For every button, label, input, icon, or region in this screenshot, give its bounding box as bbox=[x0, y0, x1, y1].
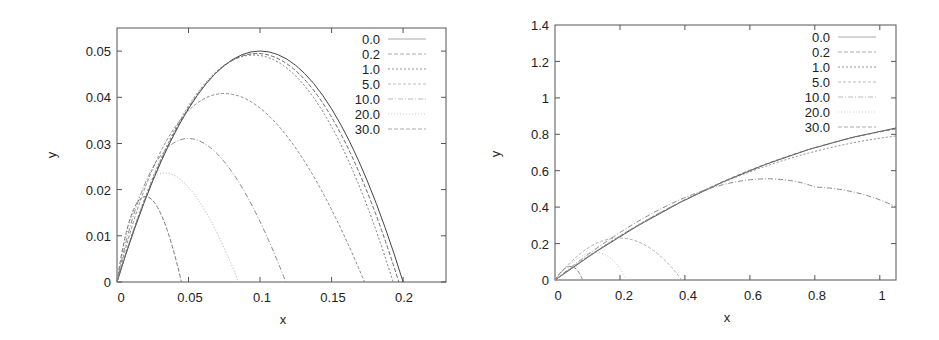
right-ytick-label: 1.4 bbox=[531, 18, 549, 33]
right-ytick-label: 0 bbox=[542, 273, 549, 288]
left-legend: 0.0 0.2 1.0 5.0 10.0 20.0 30.0 bbox=[355, 32, 426, 137]
left-xtick-label: 0.2 bbox=[395, 290, 413, 305]
legend-label: 20.0 bbox=[355, 107, 380, 122]
right-y-axis-label: y bbox=[488, 150, 503, 157]
legend-label: 0.0 bbox=[812, 30, 830, 45]
left-ytick-label: 0.02 bbox=[86, 183, 111, 198]
right-xtick-label: 1 bbox=[878, 288, 885, 303]
legend-label: 0.0 bbox=[362, 32, 380, 47]
right-xtick-label: 0.4 bbox=[679, 288, 697, 303]
legend-label: 10.0 bbox=[805, 90, 830, 105]
right-ytick-label: 0.4 bbox=[531, 200, 549, 215]
left-ytick-label: 0.03 bbox=[86, 137, 111, 152]
legend-label: 30.0 bbox=[805, 120, 830, 135]
right-ytick-label: 0.2 bbox=[531, 237, 549, 252]
right-ytick-label: 1 bbox=[542, 91, 549, 106]
right-curve-20.0 bbox=[555, 253, 627, 281]
legend-label: 10.0 bbox=[355, 92, 380, 107]
right-xtick-label: 0 bbox=[554, 288, 561, 303]
right-chart: 0 0.2 0.4 0.6 0.8 1 1.2 1.4 0 0.2 0.4 0.… bbox=[488, 18, 896, 325]
left-curve-0.2 bbox=[117, 54, 399, 283]
left-curves bbox=[117, 51, 403, 282]
left-ytick-label: 0.01 bbox=[86, 229, 111, 244]
left-ytick-label: 0.04 bbox=[86, 90, 111, 105]
legend-label: 5.0 bbox=[362, 77, 380, 92]
left-ytick-label: 0.05 bbox=[86, 44, 111, 59]
legend-label: 0.2 bbox=[812, 45, 830, 60]
left-chart: 0 0.01 0.02 0.03 0.04 0.05 0 0.05 0.1 0.… bbox=[44, 28, 446, 327]
right-xtick-label: 0.8 bbox=[808, 288, 826, 303]
right-x-ticks bbox=[620, 25, 880, 280]
figure: 0 0.01 0.02 0.03 0.04 0.05 0 0.05 0.1 0.… bbox=[0, 0, 939, 340]
right-xtick-label: 0.2 bbox=[615, 288, 633, 303]
left-y-ticks bbox=[117, 51, 446, 282]
left-curve-10.0 bbox=[117, 139, 286, 283]
legend-label: 1.0 bbox=[362, 62, 380, 77]
legend-label: 5.0 bbox=[812, 75, 830, 90]
left-curve-5.0 bbox=[117, 94, 365, 283]
legend-label: 30.0 bbox=[355, 122, 380, 137]
right-curve-1.0 bbox=[555, 136, 896, 280]
right-curve-0.0 bbox=[555, 128, 896, 280]
right-legend: 0.0 0.2 1.0 5.0 10.0 20.0 30.0 bbox=[805, 30, 876, 135]
right-curve-5.0 bbox=[555, 179, 896, 280]
left-curve-0.0 bbox=[117, 51, 403, 282]
right-curve-0.2 bbox=[555, 129, 896, 280]
left-xtick-label: 0.05 bbox=[177, 290, 202, 305]
right-ytick-label: 0.8 bbox=[531, 127, 549, 142]
right-xtick-label: 0.6 bbox=[744, 288, 762, 303]
left-xtick-label: 0.1 bbox=[253, 290, 271, 305]
legend-label: 1.0 bbox=[812, 60, 830, 75]
right-y-ticks bbox=[555, 61, 896, 243]
right-curve-10.0 bbox=[555, 238, 682, 280]
legend-label: 0.2 bbox=[362, 47, 380, 62]
right-ytick-label: 1.2 bbox=[531, 55, 549, 70]
right-curves bbox=[555, 128, 896, 280]
left-x-axis-label: x bbox=[280, 312, 287, 327]
left-y-axis-label: y bbox=[44, 151, 59, 158]
left-xtick-label: 0.15 bbox=[320, 290, 345, 305]
legend-label: 20.0 bbox=[805, 105, 830, 120]
left-ytick-label: 0 bbox=[104, 275, 111, 290]
left-plot-frame bbox=[117, 28, 446, 282]
right-x-axis-label: x bbox=[724, 310, 731, 325]
left-xtick-label: 0 bbox=[117, 290, 124, 305]
right-ytick-label: 0.6 bbox=[531, 164, 549, 179]
